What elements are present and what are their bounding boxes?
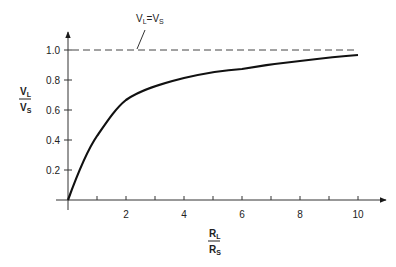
chart: 0.2 0.4 0.6 0.8 1.0 2 4 6 8 10 VL=VS VL xyxy=(0,0,396,267)
y-tick-labels: 0.2 0.4 0.6 0.8 1.0 xyxy=(46,45,60,176)
svg-text:1.0: 1.0 xyxy=(46,45,60,56)
svg-text:0.6: 0.6 xyxy=(46,105,60,116)
x-ticks xyxy=(97,196,358,200)
svg-text:VS: VS xyxy=(20,102,32,114)
x-tick-labels: 2 4 6 8 10 xyxy=(123,209,364,220)
svg-text:4: 4 xyxy=(181,209,187,220)
svg-text:VL: VL xyxy=(20,86,32,98)
svg-text:2: 2 xyxy=(123,209,129,220)
svg-text:0.8: 0.8 xyxy=(46,75,60,86)
svg-text:6: 6 xyxy=(239,209,245,220)
annotation-label: VL=VS xyxy=(136,13,164,25)
svg-text:10: 10 xyxy=(352,209,364,220)
svg-text:RS: RS xyxy=(209,244,221,256)
svg-text:0.2: 0.2 xyxy=(46,165,60,176)
y-axis-label: VL VS xyxy=(19,86,32,114)
annotation-leader xyxy=(137,30,145,49)
svg-text:8: 8 xyxy=(297,209,303,220)
svg-text:RL: RL xyxy=(209,228,221,240)
x-axis-label: RL RS xyxy=(208,228,221,256)
ratio-curve xyxy=(68,55,358,200)
svg-text:0.4: 0.4 xyxy=(46,135,60,146)
